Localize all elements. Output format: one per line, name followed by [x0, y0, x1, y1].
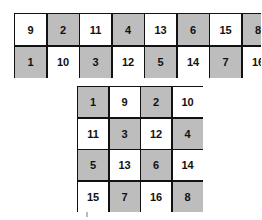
grid-cell: 11 [80, 14, 111, 45]
grid-cell: 8 [173, 182, 203, 212]
grid-cell: 16 [141, 182, 171, 212]
grid-cell: 13 [145, 14, 176, 45]
grid-cell: 3 [80, 47, 111, 78]
grid-cell: 4 [173, 119, 203, 149]
grid-cell: 9 [110, 87, 140, 117]
grid-cell: 15 [78, 182, 108, 212]
grid-cell: 2 [48, 14, 79, 45]
grid-cell: 16 [243, 47, 262, 78]
grid-cell: 6 [141, 150, 171, 180]
grid-cell: 5 [78, 150, 108, 180]
grid-cell: 12 [113, 47, 144, 78]
grid-cell: 2 [141, 87, 171, 117]
grid-cell: 10 [48, 47, 79, 78]
grid-cell: 9 [15, 14, 46, 45]
grid-cell: 11 [78, 119, 108, 149]
grid-cell: 8 [243, 14, 262, 45]
grid-cell: 1 [15, 47, 46, 78]
grid-cell: 1 [78, 87, 108, 117]
grid-cell: 14 [178, 47, 209, 78]
grid-cell: 15 [210, 14, 241, 45]
bottom-grid-4x4: 19210113124513614157168 [77, 86, 203, 212]
grid-cell: 12 [141, 119, 171, 149]
grid-cell: 6 [178, 14, 209, 45]
grid-cell: 7 [110, 182, 140, 212]
grid-cell: 10 [173, 87, 203, 117]
grid-cell: 7 [210, 47, 241, 78]
grid-cell: 3 [110, 119, 140, 149]
scan-mark [86, 212, 88, 217]
grid-cell: 13 [110, 150, 140, 180]
grid-cell: 5 [145, 47, 176, 78]
grid-cell: 4 [113, 14, 144, 45]
grid-cell: 14 [173, 150, 203, 180]
top-grid-2x8: 92114136158110312514716 [14, 13, 261, 78]
